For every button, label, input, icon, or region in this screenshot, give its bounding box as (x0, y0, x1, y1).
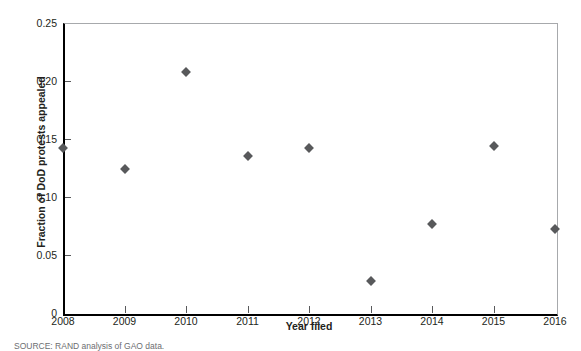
x-tick-mark (371, 306, 372, 313)
x-tick-mark (309, 306, 310, 313)
x-tick-mark (186, 306, 187, 313)
x-tick-mark (432, 306, 433, 313)
y-tick-label: 0.10 (11, 192, 57, 203)
x-tick-mark (125, 306, 126, 313)
y-tick-label: 0.15 (11, 134, 57, 145)
y-tick-mark (65, 139, 71, 140)
x-tick-mark (494, 306, 495, 313)
y-tick-label: 0.25 (11, 18, 57, 29)
y-tick-mark (65, 255, 71, 256)
source-note: SOURCE: RAND analysis of GAO data. (14, 341, 164, 351)
y-tick-label: 0.05 (11, 250, 57, 261)
x-axis-title: Year filed (63, 320, 555, 332)
y-tick-label: 0.20 (11, 76, 57, 87)
x-tick-mark (248, 306, 249, 313)
y-tick-mark (65, 81, 71, 82)
plot-area (63, 23, 558, 316)
y-tick-mark (65, 197, 71, 198)
